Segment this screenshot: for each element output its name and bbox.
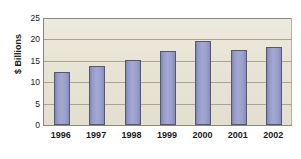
x-axis-tick-label: 2000 — [185, 130, 220, 141]
x-axis-tick-label: 2001 — [220, 130, 255, 141]
bar — [231, 50, 247, 125]
x-axis-tick-label: 1997 — [78, 130, 113, 141]
bar — [160, 51, 176, 125]
bar — [89, 66, 105, 125]
bar-chart: $ Billions 0510152025 199619971998199920… — [0, 0, 301, 159]
y-axis-tick-label: 15 — [14, 57, 40, 66]
bar — [195, 41, 211, 125]
plot-area — [43, 18, 292, 126]
x-axis-tick-label: 1996 — [43, 130, 78, 141]
bars-group — [44, 18, 292, 125]
x-axis-tick-labels: 1996199719981999200020012002 — [43, 130, 291, 144]
y-axis-tick-label: 0 — [14, 121, 40, 130]
y-axis-tick-label: 20 — [14, 35, 40, 44]
y-axis-tick-label: 10 — [14, 78, 40, 87]
y-axis-tick-label: 5 — [14, 100, 40, 109]
bar — [266, 47, 282, 125]
y-axis-tick-label: 25 — [14, 14, 40, 23]
x-axis-tick-label: 2002 — [256, 130, 291, 141]
bar — [54, 72, 70, 125]
x-axis-tick-label: 1998 — [114, 130, 149, 141]
y-axis-tick-labels: 0510152025 — [14, 0, 40, 159]
x-axis-tick-label: 1999 — [149, 130, 184, 141]
bar — [125, 60, 141, 125]
